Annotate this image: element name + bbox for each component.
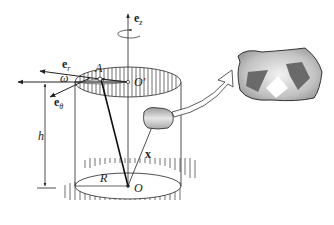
label-r: R <box>100 172 107 184</box>
diagram-canvas <box>0 0 334 225</box>
point-a <box>98 77 102 81</box>
label-x: x <box>145 148 151 160</box>
material-element <box>144 108 174 130</box>
label-o: O <box>134 182 143 194</box>
label-a: A <box>95 62 102 74</box>
label-etheta: eθ <box>54 96 63 111</box>
point-o-prime <box>126 80 129 83</box>
rotation-icon <box>118 30 140 38</box>
label-o-prime: O′ <box>134 76 145 88</box>
label-ez: ez <box>134 12 142 27</box>
label-h: h <box>38 130 44 142</box>
label-omega: ω <box>60 72 68 84</box>
